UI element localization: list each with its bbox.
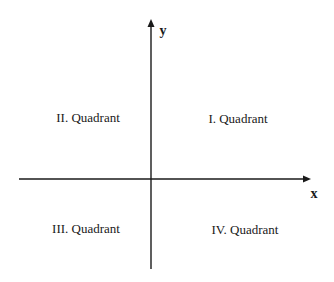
- quadrant-label-I: I. Quadrant: [208, 111, 267, 127]
- quadrant-label-III: III. Quadrant: [52, 221, 120, 237]
- y-axis-arrow-icon: [148, 19, 155, 27]
- quadrant-label-IV: IV. Quadrant: [212, 222, 279, 238]
- y-axis-label: y: [160, 23, 167, 39]
- quadrant-label-II: II. Quadrant: [56, 110, 120, 126]
- x-axis-arrow-icon: [303, 176, 311, 183]
- x-axis-label: x: [311, 186, 318, 202]
- axes-diagram: [0, 0, 334, 282]
